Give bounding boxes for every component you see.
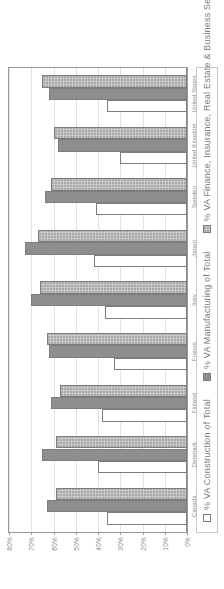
bar-group: Denmark (9, 429, 187, 481)
legend-swatch-finance (203, 225, 211, 233)
bar (49, 88, 187, 100)
bar (102, 409, 187, 421)
y-axis-tick-mark (98, 532, 99, 535)
bar-chart-figure: 0%10%20%30%40%50%60%70%80%CanadaDenmarkF… (0, 0, 224, 589)
bar-group: France (9, 326, 187, 378)
legend-item: % VA Finance, Insurance, Real Estate & B… (202, 0, 212, 233)
bar (42, 75, 187, 87)
bar-group: Japan (9, 223, 187, 275)
y-axis-tick-label: 60% (50, 537, 57, 551)
bar (49, 345, 187, 357)
bar (58, 139, 187, 151)
bar-group: Sweden (9, 171, 187, 223)
bar (47, 333, 187, 345)
bar (120, 152, 187, 164)
legend-label: % VA Manufacturing of Total (202, 251, 212, 369)
bar (31, 294, 187, 306)
bar (51, 397, 187, 409)
bar (60, 385, 187, 397)
bar (51, 178, 187, 190)
bar (40, 281, 187, 293)
bar (56, 436, 187, 448)
bar (25, 242, 187, 254)
y-axis-tick-label: 30% (117, 537, 124, 551)
y-axis-tick-mark (165, 532, 166, 535)
bar (98, 461, 187, 473)
bar (45, 191, 187, 203)
y-axis-tick-mark (120, 532, 121, 535)
legend-item: % VA Construction of Total (202, 399, 212, 522)
y-axis-tick-label: 20% (139, 537, 146, 551)
plot-area: 0%10%20%30%40%50%60%70%80%CanadaDenmarkF… (8, 67, 188, 533)
y-axis-tick-mark (143, 532, 144, 535)
y-axis-tick-label: 70% (28, 537, 35, 551)
plot-inner: 0%10%20%30%40%50%60%70%80%CanadaDenmarkF… (9, 68, 187, 532)
bar (114, 358, 187, 370)
legend-label: % VA Construction of Total (202, 399, 212, 510)
y-axis-tick-label: 80% (6, 537, 13, 551)
legend-label: % VA Finance, Insurance, Real Estate & B… (202, 0, 212, 221)
y-axis-tick-mark (54, 532, 55, 535)
bar (107, 512, 187, 524)
y-axis-tick-label: 40% (95, 537, 102, 551)
y-axis-tick-mark (9, 532, 10, 535)
bar-group: United Kingdom (9, 120, 187, 172)
chart-legend: % VA Construction of Total% VA Manufactu… (196, 67, 218, 533)
bar (38, 230, 187, 242)
bar (54, 127, 188, 139)
bar (96, 203, 187, 215)
legend-swatch-manufacturing (203, 373, 211, 381)
y-axis-tick-mark (187, 532, 188, 535)
bar (42, 449, 187, 461)
bar-group: Italy (9, 274, 187, 326)
bar-group: Finland (9, 377, 187, 429)
bar (105, 306, 187, 318)
bar (107, 100, 187, 112)
y-axis-tick-mark (76, 532, 77, 535)
bar (94, 255, 187, 267)
y-axis-tick-label: 50% (72, 537, 79, 551)
bar-group: United States (9, 68, 187, 120)
bar (56, 488, 187, 500)
y-axis-tick-mark (31, 532, 32, 535)
bar (47, 500, 187, 512)
y-axis-tick-label: 0% (184, 537, 191, 547)
y-axis-tick-label: 10% (161, 537, 168, 551)
legend-item: % VA Manufacturing of Total (202, 251, 212, 381)
bar-group: Canada (9, 480, 187, 532)
legend-swatch-construction (203, 514, 211, 522)
